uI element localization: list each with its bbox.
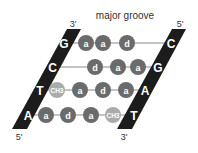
atom-label: CH3 — [50, 87, 63, 94]
atom-label: d — [124, 39, 130, 49]
right-strand-bottom-label: 3' — [121, 132, 128, 142]
right-base-T: T — [130, 109, 138, 123]
left-base-G: G — [59, 37, 68, 51]
diagram-title: major groove — [96, 10, 155, 21]
left-base-T: T — [36, 84, 44, 98]
right-strand-top-label: 5' — [177, 19, 184, 29]
atom-label: d — [92, 63, 98, 73]
right-base-C: C — [167, 37, 176, 51]
atom-label: d — [100, 86, 106, 96]
right-base-A: A — [141, 84, 150, 98]
right-base-G: G — [153, 61, 162, 75]
left-strand-top-label: 3' — [70, 19, 77, 29]
atom-label: CH3 — [106, 112, 119, 119]
left-strand-bottom-label: 5' — [16, 132, 23, 142]
left-base-A: A — [24, 109, 33, 123]
left-base-C: C — [48, 61, 57, 75]
dna-major-groove-diagram: a a d d a a CH3 a d a a d a CH3 G C T A … — [0, 0, 198, 153]
atom-label: d — [65, 111, 71, 121]
